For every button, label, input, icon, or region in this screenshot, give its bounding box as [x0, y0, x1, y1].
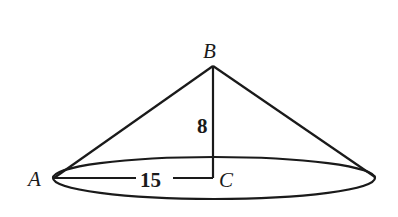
- slant-edge-AB: [54, 66, 213, 178]
- radius-label: 15: [140, 168, 161, 192]
- height-label: 8: [197, 114, 208, 138]
- cone-diagram: B A C 8 15: [0, 0, 398, 217]
- point-label-B: B: [203, 39, 216, 63]
- point-label-A: A: [26, 167, 41, 191]
- point-label-C: C: [219, 168, 234, 192]
